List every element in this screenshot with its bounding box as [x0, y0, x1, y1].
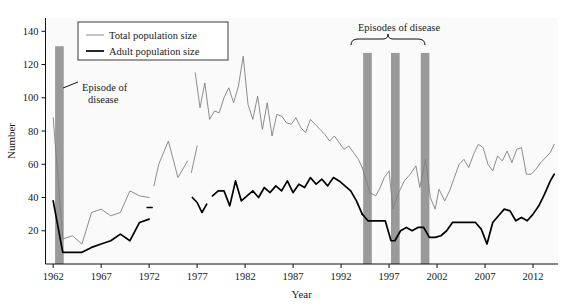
x-tick-label-2002: 2002 — [427, 271, 448, 282]
x-tick-label-1962: 1962 — [43, 271, 64, 282]
y-tick-label-140: 140 — [23, 26, 39, 37]
y-tick-label-120: 120 — [23, 59, 39, 70]
x-tick-label-1992: 1992 — [331, 271, 352, 282]
x-tick-label-2012: 2012 — [523, 271, 544, 282]
x-tick-label-2007: 2007 — [475, 271, 496, 282]
y-tick-label-40: 40 — [28, 192, 39, 203]
disease-band-2 — [391, 53, 400, 264]
y-axis-title: Number — [5, 123, 17, 159]
x-axis-title: Year — [292, 288, 313, 300]
legend-label-1: Adult population size — [109, 46, 200, 57]
episodes-annotation-label: Episodes of disease — [358, 22, 441, 33]
population-chart: 20406080100120140Number19621967197219771… — [0, 0, 569, 305]
episode-annotation-line1: Episode of — [82, 82, 128, 93]
disease-band-1 — [363, 53, 372, 264]
episode-annotation-line2: disease — [88, 94, 119, 105]
x-tick-label-1982: 1982 — [235, 271, 256, 282]
y-tick-label-100: 100 — [23, 92, 39, 103]
x-tick-label-1972: 1972 — [139, 271, 160, 282]
x-tick-label-1997: 1997 — [379, 271, 400, 282]
x-tick-label-1977: 1977 — [187, 271, 208, 282]
legend-label-0: Total population size — [109, 30, 197, 41]
x-tick-label-1967: 1967 — [91, 271, 112, 282]
chart-canvas: 20406080100120140Number19621967197219771… — [0, 0, 569, 305]
x-tick-label-1987: 1987 — [283, 271, 304, 282]
disease-band-3 — [421, 53, 430, 264]
y-tick-label-20: 20 — [28, 225, 39, 236]
y-tick-label-60: 60 — [28, 159, 39, 170]
y-tick-label-80: 80 — [28, 126, 39, 137]
